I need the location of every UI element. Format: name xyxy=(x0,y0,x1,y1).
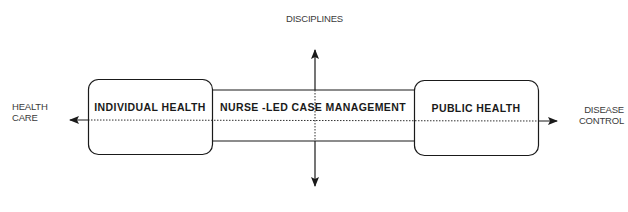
disease-control-label: DISEASE CONTROL xyxy=(568,104,624,126)
public-health-label: PUBLIC HEALTH xyxy=(414,102,538,114)
public-health-box xyxy=(415,81,539,156)
disease-control-line1: DISEASE xyxy=(568,104,624,115)
health-care-line2: CARE xyxy=(12,112,48,123)
health-care-line1: HEALTH xyxy=(12,101,48,112)
individual-health-label: INDIVIDUAL HEALTH xyxy=(88,101,212,113)
individual-health-box xyxy=(89,80,213,155)
health-care-label: HEALTH CARE xyxy=(12,101,48,123)
nurse-led-case-management-label: NURSE -LED CASE MANAGEMENT xyxy=(212,101,414,113)
disciplines-label: DISCIPLINES xyxy=(286,13,343,24)
central-band xyxy=(212,90,414,141)
disease-control-line2: CONTROL xyxy=(568,115,624,126)
